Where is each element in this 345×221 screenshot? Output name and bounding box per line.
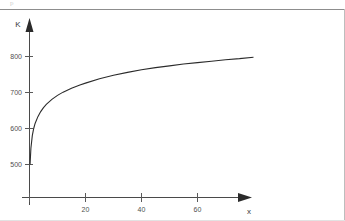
y-tick-label-500: 500 <box>10 161 22 168</box>
y-tick-label-800: 800 <box>10 53 22 60</box>
x-tick-label-60: 60 <box>194 206 202 213</box>
chart-svg: 800 700 600 500 20 40 60 K x <box>0 9 345 221</box>
y-axis-label: K <box>15 20 21 29</box>
line-chart: 800 700 600 500 20 40 60 K x <box>0 9 345 221</box>
figure-page: p 800 700 600 500 20 <box>0 0 345 221</box>
y-tick-label-700: 700 <box>10 89 22 96</box>
y-tick-label-600: 600 <box>10 125 22 132</box>
y-axis-arrow-icon <box>26 18 34 32</box>
x-axis-arrow-icon <box>238 193 252 202</box>
scan-artifact-glyph: p <box>10 0 14 7</box>
series-line-k <box>30 57 253 164</box>
x-tick-label-40: 40 <box>138 206 146 213</box>
x-axis-label: x <box>247 207 251 216</box>
x-tick-label-20: 20 <box>82 206 90 213</box>
